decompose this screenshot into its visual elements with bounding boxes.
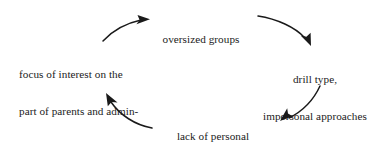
node-focus-of-interest: focus of interest on the part of parents… (19, 44, 169, 145)
node-label-line: focus of interest on the (19, 68, 169, 80)
node-label-line: part of parents and admin- (19, 105, 169, 117)
node-label-line: istrators on ‘‘show’’ (19, 142, 169, 145)
node-label-line: drill type, (240, 73, 390, 85)
cycle-diagram: oversized groups drill type, impersonal … (0, 0, 390, 145)
